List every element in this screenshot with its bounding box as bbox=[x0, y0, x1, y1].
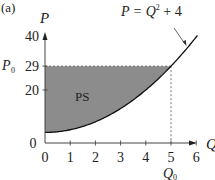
chart: 0123456 0202940 (a) P Q PS P 0 Q 0 P = Q… bbox=[0, 0, 215, 180]
x-axis-label: Q bbox=[206, 136, 215, 152]
q0-label: Q 0 bbox=[163, 166, 177, 180]
svg-text:P = Q2 + 4: P = Q2 + 4 bbox=[120, 3, 182, 19]
svg-text:P: P bbox=[1, 58, 11, 73]
x-tick-label: 2 bbox=[92, 150, 99, 165]
equation-label: P = Q2 + 4 bbox=[120, 3, 182, 19]
y-axis-label: P bbox=[39, 10, 49, 26]
y-axis-arrow-icon bbox=[43, 32, 48, 40]
x-tick-label: 6 bbox=[193, 150, 200, 165]
ps-label: PS bbox=[75, 89, 89, 104]
x-tick-label: 4 bbox=[142, 150, 149, 165]
y-tick-label: 20 bbox=[25, 83, 39, 98]
x-ticks: 0123456 bbox=[42, 141, 200, 166]
svg-text:Q: Q bbox=[163, 166, 173, 180]
y-ticks: 0202940 bbox=[25, 29, 48, 151]
y-tick-label: 29 bbox=[25, 59, 39, 74]
x-tick-label: 0 bbox=[42, 150, 49, 165]
svg-text:0: 0 bbox=[173, 173, 177, 180]
y-tick-label: 0 bbox=[30, 136, 37, 151]
p0-label: P 0 bbox=[1, 58, 15, 75]
svg-text:0: 0 bbox=[11, 66, 15, 75]
x-tick-label: 1 bbox=[67, 150, 74, 165]
x-tick-label: 3 bbox=[117, 150, 124, 165]
panel-label: (a) bbox=[1, 0, 15, 15]
producer-surplus-area bbox=[45, 66, 171, 132]
x-tick-label: 5 bbox=[168, 150, 175, 165]
y-tick-label: 40 bbox=[25, 29, 39, 44]
